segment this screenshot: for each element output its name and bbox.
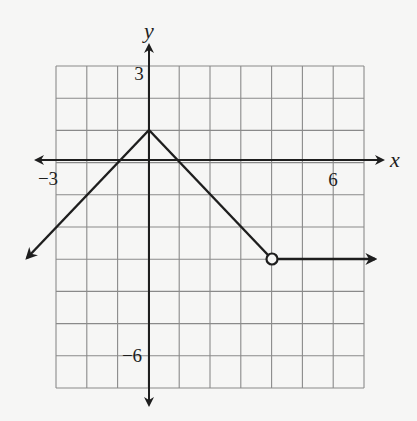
descending-segment [149, 130, 268, 255]
left-ray [27, 130, 149, 258]
function-graph: y x 3 −3 6 −6 [0, 0, 417, 421]
tick-label-x-neg3: −3 [38, 168, 58, 189]
open-circle-marker [267, 254, 278, 265]
grid [56, 66, 364, 388]
tick-label-x-6: 6 [328, 169, 338, 190]
x-axis-label: x [389, 147, 400, 172]
y-axis-label: y [142, 18, 154, 43]
function-curve [27, 130, 375, 265]
tick-label-y-3: 3 [134, 63, 144, 84]
tick-label-y-neg6: −6 [122, 345, 142, 366]
